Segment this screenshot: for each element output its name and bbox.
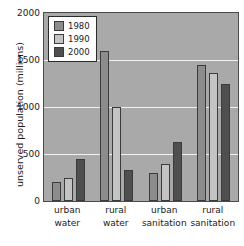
bar-group bbox=[141, 13, 190, 201]
x-category-label: ruralwater bbox=[92, 204, 141, 229]
bar-group bbox=[93, 13, 142, 201]
plot-area: 198019902000 bbox=[43, 12, 239, 202]
bar bbox=[221, 84, 230, 201]
bar bbox=[149, 173, 158, 201]
x-category-label-line: sanitation bbox=[189, 217, 238, 230]
legend-label: 1990 bbox=[68, 35, 90, 44]
x-axis-category-labels: urbanwaterruralwaterurbansanitationrural… bbox=[43, 204, 239, 244]
x-category-label: urbansanitation bbox=[140, 204, 189, 229]
x-category-label-line: water bbox=[43, 217, 92, 230]
legend-label: 1980 bbox=[68, 22, 90, 31]
x-category-label-line: water bbox=[92, 217, 141, 230]
bar bbox=[76, 159, 85, 201]
y-tick-label: 0 bbox=[10, 196, 40, 206]
legend-item: 1990 bbox=[54, 34, 90, 44]
x-category-label-line: rural bbox=[92, 204, 141, 217]
legend-swatch bbox=[54, 47, 64, 57]
legend-swatch bbox=[54, 34, 64, 44]
x-category-label-line: rural bbox=[189, 204, 238, 217]
bar bbox=[64, 178, 73, 201]
x-category-label-line: sanitation bbox=[140, 217, 189, 230]
y-tick-label: 500 bbox=[10, 149, 40, 159]
bar-chart-figure: unserved population (millions) 050010001… bbox=[0, 0, 244, 246]
x-category-label: ruralsanitation bbox=[189, 204, 238, 229]
y-tick-label: 1500 bbox=[10, 55, 40, 65]
y-tick-label: 2000 bbox=[10, 8, 40, 18]
x-category-label-line: urban bbox=[43, 204, 92, 217]
legend-item: 1980 bbox=[54, 21, 90, 31]
y-axis-tick-labels: 0500100015002000 bbox=[8, 0, 40, 246]
x-category-label-line: urban bbox=[140, 204, 189, 217]
legend: 198019902000 bbox=[48, 16, 97, 62]
bar bbox=[112, 107, 121, 201]
legend-label: 2000 bbox=[68, 48, 90, 57]
bar bbox=[197, 65, 206, 201]
bar bbox=[124, 170, 133, 201]
bar bbox=[209, 73, 218, 201]
bar-group bbox=[190, 13, 239, 201]
bar bbox=[52, 182, 61, 201]
legend-item: 2000 bbox=[54, 47, 90, 57]
bar bbox=[173, 142, 182, 201]
x-category-label: urbanwater bbox=[43, 204, 92, 229]
bar bbox=[161, 164, 170, 201]
legend-swatch bbox=[54, 21, 64, 31]
y-tick-label: 1000 bbox=[10, 102, 40, 112]
bar bbox=[100, 51, 109, 201]
